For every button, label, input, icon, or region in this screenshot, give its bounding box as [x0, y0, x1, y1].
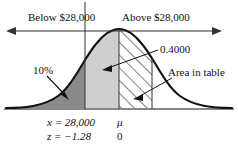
- label-below-28000: Below $28,000: [28, 12, 95, 23]
- axis-label-mu-zero: 0: [117, 130, 123, 142]
- region-area-in-table-hatched: [119, 20, 152, 108]
- right-arrowhead-icon: [212, 27, 222, 35]
- region-x-to-mu: [85, 20, 119, 108]
- axis-label-z-value: z = −1.28: [47, 130, 91, 142]
- left-arrowhead-icon: [6, 27, 16, 35]
- label-above-28000: Above $28,000: [122, 12, 190, 23]
- axis-label-mu: μ: [117, 116, 123, 128]
- normal-curve-diagram: Below $28,000 Above $28,000 10% 0.4000 A…: [0, 0, 238, 152]
- label-tail-percent: 10%: [33, 65, 53, 76]
- axis-label-x-value: x = 28,000: [47, 116, 95, 128]
- label-area-in-table: Area in table: [168, 67, 225, 78]
- label-area-value: 0.4000: [160, 44, 190, 55]
